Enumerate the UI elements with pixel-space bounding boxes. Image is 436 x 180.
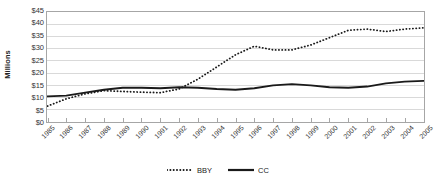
x-tick-label: 2005 — [417, 124, 433, 140]
x-tick-label: 1994 — [210, 124, 226, 140]
legend-entry-cc[interactable]: CC — [228, 166, 269, 175]
y-axis-tick-labels: $0$5$10$15$20$25$30$35$40$45 — [12, 0, 44, 128]
legend-swatch-bby — [167, 166, 193, 174]
x-tick-label: 2002 — [361, 124, 377, 140]
y-tick-label: $30 — [14, 44, 44, 52]
series-line-cc — [47, 81, 423, 96]
y-tick-label: $20 — [14, 69, 44, 77]
y-tick-label: $40 — [14, 19, 44, 27]
x-tick-label: 1987 — [77, 124, 93, 140]
gridlines — [47, 24, 424, 110]
x-tick-label: 1988 — [96, 124, 112, 140]
x-tick-label: 1999 — [304, 124, 320, 140]
series-line-bby — [47, 28, 423, 106]
y-tick-label: $10 — [14, 94, 44, 102]
legend-swatch-cc — [228, 166, 254, 174]
x-axis-tick-labels: 1985198619871988198919901991199219931994… — [46, 124, 425, 158]
x-tick-label: 1996 — [247, 124, 263, 140]
x-tick-label: 1989 — [115, 124, 131, 140]
plot-svg — [47, 12, 424, 122]
y-tick-label: $15 — [14, 82, 44, 90]
y-tick-label: $5 — [14, 107, 44, 115]
x-tick-label: 1990 — [134, 124, 150, 140]
x-tick-label: 2004 — [399, 124, 415, 140]
y-tick-label: $0 — [14, 119, 44, 127]
line-chart: Millions $0$5$10$15$20$25$30$35$40$45 19… — [0, 0, 436, 180]
x-axis-ticks — [48, 118, 424, 122]
y-tick-label: $35 — [14, 32, 44, 40]
x-tick-label: 1998 — [285, 124, 301, 140]
y-tick-label: $25 — [14, 57, 44, 65]
legend-label: BBY — [197, 166, 212, 175]
x-tick-label: 1993 — [191, 124, 207, 140]
x-tick-label: 1992 — [172, 124, 188, 140]
x-tick-label: 1991 — [153, 124, 169, 140]
x-tick-label: 2000 — [323, 124, 339, 140]
y-axis-title-label: Millions — [3, 50, 12, 79]
legend-label: CC — [258, 166, 269, 175]
y-tick-label: $45 — [14, 7, 44, 15]
x-tick-label: 2001 — [342, 124, 358, 140]
x-tick-label: 1986 — [58, 124, 74, 140]
x-tick-label: 1995 — [228, 124, 244, 140]
chart-legend: BBYCC — [0, 162, 436, 178]
x-tick-label: 1997 — [266, 124, 282, 140]
legend-entry-bby[interactable]: BBY — [167, 166, 212, 175]
plot-area — [46, 11, 425, 123]
x-tick-label: 2003 — [380, 124, 396, 140]
